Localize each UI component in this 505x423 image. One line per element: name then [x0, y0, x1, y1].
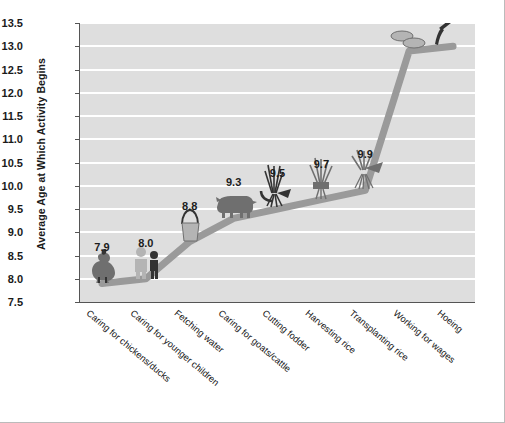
- x-axis-tick-label: Caring for younger children: [128, 308, 220, 388]
- y-axis-title: Average Age at Which Activity Begins: [35, 29, 47, 279]
- data-value-label: 9.7: [314, 158, 329, 170]
- x-axis-tick-label: Caring for chickens/ducks: [85, 308, 173, 384]
- x-axis-tick-label: Caring for goats/cattle: [216, 308, 292, 374]
- y-axis-tick-label: 8.5: [0, 250, 23, 262]
- rooster-icon: [85, 247, 119, 287]
- y-axis-tick-mark: [75, 232, 79, 233]
- y-axis-tick-mark: [75, 256, 79, 257]
- y-axis-tick-label: 12.0: [0, 87, 23, 99]
- y-axis-tick-label: 9.5: [0, 203, 23, 215]
- y-axis-tick-label: 10.0: [0, 180, 23, 192]
- data-value-label: 8.0: [138, 237, 153, 249]
- y-axis-tick-label: 10.5: [0, 157, 23, 169]
- hoe-icon: [432, 23, 474, 50]
- y-axis-tick-label: 8.0: [0, 273, 23, 285]
- data-value-label: 9.3: [226, 176, 241, 188]
- y-axis-tick-label: 7.5: [0, 296, 23, 308]
- y-axis-tick-label: 11.5: [0, 110, 23, 122]
- data-value-label: 9.5: [270, 167, 285, 179]
- y-axis-tick-mark: [75, 186, 79, 187]
- children-icon: [131, 245, 161, 283]
- chart-figure: Average Age at Which Activity Begins 13.…: [0, 0, 505, 423]
- y-axis-tick-mark: [75, 279, 79, 280]
- y-axis-tick-label: 13.5: [0, 17, 23, 29]
- y-axis-tick-mark: [75, 93, 79, 94]
- y-axis-tick-label: 11.0: [0, 133, 23, 145]
- data-value-label: 7.9: [94, 241, 109, 253]
- data-value-label: 9.9: [358, 148, 373, 160]
- y-axis-tick-label: 9.0: [0, 226, 23, 238]
- cattle-icon: [211, 192, 257, 222]
- y-axis-tick-mark: [75, 163, 79, 164]
- y-axis-tick-mark: [75, 302, 79, 303]
- x-axis-tick-label: Hoeing: [436, 308, 465, 335]
- y-axis-tick-mark: [75, 23, 79, 24]
- y-axis-tick-label: 13.0: [0, 40, 23, 52]
- data-value-label: 8.8: [182, 200, 197, 212]
- plot-area: 7.98.08.89.39.59.79.912.913.0: [79, 23, 475, 303]
- y-axis-tick-mark: [75, 209, 79, 210]
- y-axis-tick-mark: [75, 70, 79, 71]
- y-axis-tick-mark: [75, 139, 79, 140]
- y-axis-tick-label: 12.5: [0, 64, 23, 76]
- y-axis-tick-mark: [75, 116, 79, 117]
- coins-wages-icon: [389, 29, 429, 55]
- y-axis-tick-mark: [75, 46, 79, 47]
